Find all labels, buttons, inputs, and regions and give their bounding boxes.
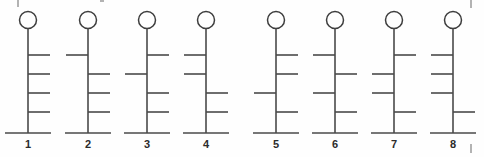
figure-2: 2	[65, 12, 111, 151]
figure-3: 3	[124, 12, 170, 151]
node-circle	[139, 12, 156, 29]
node-circle	[198, 12, 215, 29]
figure-label: 5	[273, 138, 279, 150]
figure-label: 3	[144, 138, 150, 150]
figure-5: 5	[253, 12, 299, 151]
figure-4: 4	[183, 12, 229, 151]
node-circle	[386, 12, 403, 29]
node-circle	[268, 12, 285, 29]
figure-label: 2	[85, 138, 91, 150]
figure-label: 8	[450, 138, 456, 150]
node-circle	[80, 12, 97, 29]
node-circle	[20, 12, 37, 29]
figure-6: 6	[312, 12, 358, 151]
figure-label: 7	[391, 138, 397, 150]
figures-layer: 12345678	[5, 12, 476, 151]
scan-artifacts-layer	[18, 0, 471, 153]
figure-7: 7	[371, 12, 417, 151]
figure-1: 1	[5, 12, 51, 151]
node-circle	[327, 12, 344, 29]
figure-label: 6	[332, 138, 338, 150]
figure-label: 4	[203, 138, 210, 150]
node-circle	[445, 12, 462, 29]
figure-8: 8	[430, 12, 476, 151]
figure-label: 1	[25, 138, 31, 150]
diagram-canvas: 12345678	[0, 0, 484, 157]
figures-svg: 12345678	[0, 0, 484, 157]
